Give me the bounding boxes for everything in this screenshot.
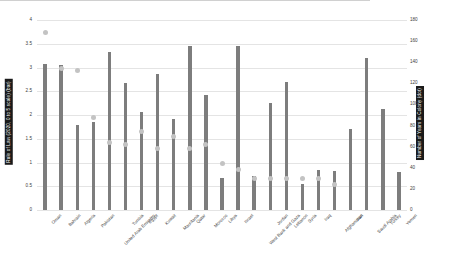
gridline	[37, 20, 407, 21]
scatter-dot	[123, 142, 128, 147]
y-axis-left-tick-label: 0.5	[16, 183, 32, 188]
x-axis-tick-label: Israel	[243, 213, 254, 224]
x-axis-tick-label: Yemen	[405, 213, 418, 226]
x-axis-line	[0, 0, 370, 1]
bar	[43, 64, 46, 210]
scatter-dot	[91, 115, 96, 120]
bar	[156, 74, 159, 210]
gridline	[37, 68, 407, 69]
bar	[365, 58, 368, 210]
y-axis-right-tick-label: 80	[410, 123, 428, 128]
scatter-dot	[316, 176, 321, 181]
scatter-dot	[59, 66, 64, 71]
x-axis-tick-label: Algeria	[83, 213, 96, 226]
y-axis-right-tick-label: 0	[410, 207, 428, 212]
gridline	[37, 44, 407, 45]
x-axis-tick-label: Morocco	[213, 213, 228, 228]
scatter-dot	[300, 176, 305, 181]
y-axis-left-tick-label: 3.5	[16, 41, 32, 46]
y-axis-right-tick-label: 100	[410, 101, 428, 106]
x-axis-tick-label: Pakistan	[100, 213, 115, 228]
bar	[349, 129, 352, 210]
y-axis-left-tick-label: 1.5	[16, 136, 32, 141]
scatter-dot	[43, 30, 48, 35]
bar	[92, 122, 95, 210]
y-axis-left-title: Rule of Law (2020, 0 to 5 scale) (bar)	[5, 79, 13, 165]
bar	[301, 184, 304, 210]
bar	[236, 46, 239, 210]
y-axis-left-tick-label: 3	[16, 65, 32, 70]
x-axis-tick-label: Egypt	[147, 213, 158, 224]
scatter-dot	[107, 140, 112, 145]
scatter-dot	[252, 176, 257, 181]
y-axis-left-tick-label: 2	[16, 112, 32, 117]
bar	[76, 125, 79, 210]
scatter-dot	[284, 176, 289, 181]
bar	[381, 109, 384, 210]
y-axis-left-tick-label: 2.5	[16, 88, 32, 93]
y-axis-left-tick-label: 4	[16, 17, 32, 22]
y-axis-right-tick-label: 20	[410, 186, 428, 191]
scatter-dot	[268, 176, 273, 181]
bar	[108, 52, 111, 210]
bar	[188, 46, 191, 210]
scatter-dot	[75, 68, 80, 73]
x-axis-tick-label: Iraq	[323, 213, 332, 222]
x-axis-tick-label: Kuwait	[164, 213, 177, 226]
y-axis-left-tick-label: 0	[16, 207, 32, 212]
bar	[172, 119, 175, 210]
y-axis-right-tick-label: 40	[410, 165, 428, 170]
bar	[285, 82, 288, 210]
bar	[204, 95, 207, 210]
chart-container: Rule of Law (2020, 0 to 5 scale) (bar) N…	[0, 0, 451, 279]
y-axis-right-tick-label: 120	[410, 80, 428, 85]
bar	[333, 171, 336, 210]
y-axis-right-tick-label: 160	[410, 38, 428, 43]
x-axis-tick-label: Bahrain	[68, 213, 82, 227]
bar	[140, 112, 143, 210]
bar	[252, 176, 255, 210]
bar	[59, 65, 62, 210]
y-axis-right-tick-label: 140	[410, 59, 428, 64]
gridline	[37, 91, 407, 92]
x-axis-tick-label: Oman	[51, 213, 63, 225]
x-axis-tick-label: Syria	[307, 213, 318, 224]
bar	[220, 178, 223, 210]
bar	[397, 172, 400, 210]
bar	[269, 103, 272, 210]
x-axis-tick-label: Libya	[227, 213, 238, 224]
y-axis-right-tick-label: 180	[410, 17, 428, 22]
scatter-dot	[220, 161, 225, 166]
scatter-dot	[171, 134, 176, 139]
y-axis-right-tick-label: 60	[410, 144, 428, 149]
gridline	[37, 210, 407, 211]
y-axis-left-tick-label: 1	[16, 160, 32, 165]
